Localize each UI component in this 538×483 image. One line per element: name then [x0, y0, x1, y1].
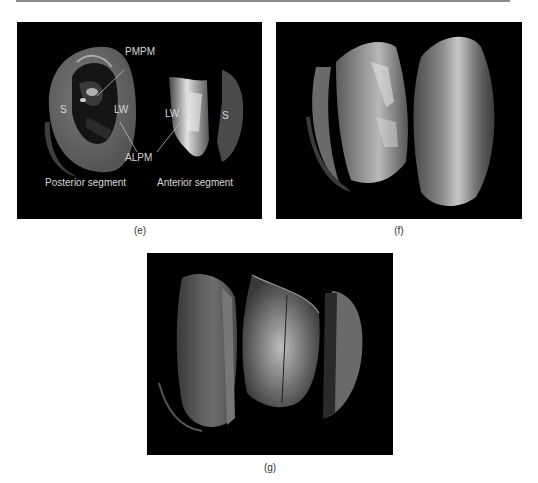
caption-f: (f) — [384, 225, 414, 236]
label-pmpm: PMPM — [125, 46, 155, 57]
top-rule — [16, 0, 510, 2]
label-lateral-wall-posterior: LW — [114, 104, 128, 115]
panel-f-image — [276, 22, 522, 219]
label-posterior-segment: Posterior segment — [45, 177, 126, 188]
label-anterior-segment: Anterior segment — [157, 177, 233, 188]
label-septum-posterior: S — [60, 104, 67, 115]
ventricle-segments-render — [276, 22, 522, 219]
panel-e-image: PMPM S LW LW S ALPM Posterior segment An… — [17, 22, 262, 219]
panel-g-image — [147, 253, 393, 455]
caption-g: (g) — [255, 462, 285, 473]
label-alpm: ALPM — [125, 152, 152, 163]
caption-e: (e) — [125, 225, 155, 236]
three-segments-render — [147, 253, 393, 455]
label-septum-anterior: S — [222, 110, 229, 121]
label-lateral-wall-anterior: LW — [165, 108, 179, 119]
